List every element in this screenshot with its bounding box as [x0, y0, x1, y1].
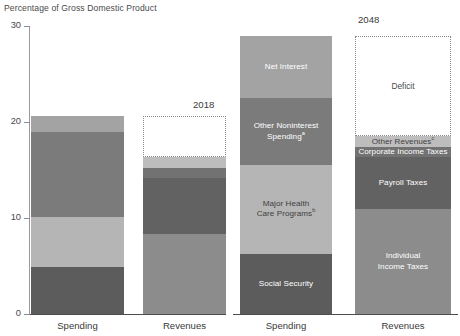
segment-other-noninterest-spending[interactable]: Other Noninterest Spendinga — [240, 98, 332, 165]
category-label-2018-revenues: Revenues — [143, 320, 226, 331]
segment-other-noninterest-spending[interactable] — [31, 132, 124, 217]
segment-label: Other Noninterest Spendinga — [252, 121, 321, 141]
segment-corporate-income-taxes[interactable]: Corporate Income Taxes — [355, 147, 451, 157]
bar-2018-revenues[interactable] — [143, 157, 226, 314]
segment-label: Net Interest — [263, 62, 309, 72]
segment-social-security[interactable] — [31, 267, 124, 314]
deficit-box-2048[interactable]: Deficit — [355, 36, 451, 137]
y-axis-label-30: 30 — [11, 20, 21, 30]
x-axis-line-group-2018 — [29, 314, 226, 315]
y-axis-label-20: 20 — [11, 116, 21, 126]
bar-2018-spending[interactable] — [31, 116, 124, 314]
category-label-2048-revenues: Revenues — [355, 320, 451, 331]
year-label-2018: 2018 — [193, 99, 214, 110]
y-axis-tick-0 — [24, 314, 30, 315]
segment-label: Major Health Care Programsb — [255, 199, 318, 219]
y-axis-label-0: 0 — [16, 308, 21, 318]
chart-axis-title: Percentage of Gross Domestic Product — [4, 3, 157, 13]
segment-other-revenues[interactable] — [143, 157, 226, 169]
segment-label: Payroll Taxes — [377, 178, 430, 188]
segment-label: Other Revenuesc — [370, 137, 437, 147]
segment-corporate-income-taxes[interactable] — [143, 168, 226, 178]
footnote-marker-b: b — [312, 208, 315, 214]
segment-individual-income-taxes[interactable] — [143, 234, 226, 314]
y-axis-tick-10 — [24, 218, 30, 219]
y-axis-tick-20 — [24, 122, 30, 123]
segment-major-health-care-programs[interactable]: Major Health Care Programsb — [240, 165, 332, 253]
deficit-label: Deficit — [391, 81, 414, 91]
deficit-box-2018[interactable] — [143, 116, 226, 156]
y-axis-label-10: 10 — [11, 212, 21, 222]
segment-major-health-care-programs[interactable] — [31, 217, 124, 267]
y-axis-tick-30 — [24, 26, 30, 27]
x-axis-line-group-2048 — [233, 314, 458, 315]
footnote-marker-a: a — [302, 130, 305, 136]
segment-net-interest[interactable] — [31, 116, 124, 131]
segment-other-revenues[interactable]: Other Revenuesc — [355, 136, 451, 147]
chart-container: Percentage of Gross Domestic Product 010… — [0, 0, 460, 336]
segment-label: Social Security — [257, 279, 315, 289]
segment-label: Individual Income Taxes — [376, 251, 430, 271]
category-label-2018-spending: Spending — [31, 320, 124, 331]
bar-2048-revenues[interactable]: Individual Income TaxesPayroll TaxesCorp… — [355, 136, 451, 314]
segment-payroll-taxes[interactable] — [143, 178, 226, 235]
segment-label: Corporate Income Taxes — [356, 147, 449, 157]
segment-net-interest[interactable]: Net Interest — [240, 36, 332, 98]
segment-payroll-taxes[interactable]: Payroll Taxes — [355, 157, 451, 210]
bar-2048-spending[interactable]: Social SecurityMajor Health Care Program… — [240, 36, 332, 314]
category-label-2048-spending: Spending — [240, 320, 332, 331]
year-label-2048: 2048 — [358, 14, 379, 25]
segment-social-security[interactable]: Social Security — [240, 254, 332, 314]
footnote-marker-c: c — [431, 136, 434, 140]
segment-individual-income-taxes[interactable]: Individual Income Taxes — [355, 209, 451, 314]
y-axis-line — [29, 26, 30, 315]
